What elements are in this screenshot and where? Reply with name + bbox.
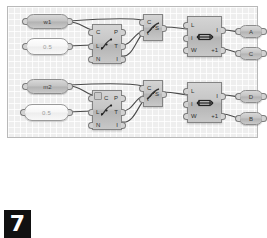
param-output-d[interactable]: D (239, 90, 263, 103)
port-in-l-nub-1[interactable] (88, 43, 93, 50)
component-rectangle-2[interactable]: L I W I +1 (187, 82, 222, 123)
port-label-c-2: C (104, 95, 108, 101)
param-output-d-output-nub[interactable] (262, 93, 265, 100)
port-label-n-2: N (96, 122, 100, 128)
param-number-1-label: 0.5 (43, 44, 52, 50)
port-label-i-1: I (116, 56, 118, 62)
param-number-2[interactable]: 0.5 (24, 104, 69, 121)
rect-port-label-i-2: I (191, 101, 193, 107)
eval-port-in-t-nub-2[interactable] (139, 96, 144, 103)
eval-port-in-c-nub-1[interactable] (139, 19, 144, 26)
param-w1-input-nub[interactable] (22, 18, 27, 25)
param-output-d-input-nub[interactable] (235, 93, 240, 100)
rect-port-label-w-1: W (191, 47, 197, 53)
param-number-2-label: 0.5 (42, 110, 51, 116)
port-in-c-nub-2[interactable] (88, 95, 93, 102)
port-label-c-1: C (96, 29, 100, 35)
rect-port-in-w-nub-1[interactable] (183, 47, 188, 54)
param-output-a[interactable]: A (239, 25, 263, 38)
param-m2-input-nub[interactable] (22, 83, 27, 90)
param-output-a-label: A (249, 29, 253, 35)
eval-port-in-c-nub-2[interactable] (139, 85, 144, 92)
param-output-c-output-nub[interactable] (262, 50, 265, 57)
rect-port-label-out-i-2: I (216, 93, 218, 99)
rect-port-in-w-nub-2[interactable] (183, 113, 188, 120)
port-label-p-1: P (114, 29, 118, 35)
rect-port-label-out-i-1: I (216, 27, 218, 33)
rect-port-in-l-nub-1[interactable] (183, 22, 188, 29)
param-output-b-output-nub[interactable] (262, 115, 265, 122)
component-rectangle-1[interactable]: L I W I +1 (187, 16, 222, 57)
port-in-l-nub-2[interactable] (88, 109, 93, 116)
rect-port-label-out-plus-2: +1 (211, 113, 218, 119)
rect-port-in-i-nub-1[interactable] (183, 35, 188, 42)
rect-port-label-i-1: I (191, 35, 193, 41)
port-label-p-2: P (114, 95, 118, 101)
param-number-2-input-nub[interactable] (20, 109, 25, 116)
param-w1[interactable]: w1 (26, 14, 69, 29)
port-in-c-nub-1[interactable] (88, 29, 93, 36)
param-output-a-input-nub[interactable] (235, 28, 240, 35)
divide-curve-icon (99, 103, 115, 117)
param-number-1[interactable]: 0.5 (26, 38, 69, 55)
port-in-n-nub-2[interactable] (88, 122, 93, 129)
rect-port-label-l-2: L (191, 88, 194, 94)
param-output-c-input-nub[interactable] (235, 50, 240, 57)
param-m2[interactable]: m2 (26, 79, 69, 94)
param-output-c-label: C (249, 51, 254, 57)
evaluate-curve-icon (146, 88, 160, 100)
rect-port-in-i-nub-2[interactable] (183, 101, 188, 108)
param-number-1-input-nub[interactable] (22, 43, 27, 50)
eval-port-in-t-nub-1[interactable] (139, 30, 144, 37)
rectangle-icon (196, 97, 214, 109)
param-w1-label: w1 (43, 19, 51, 25)
param-output-a-output-nub[interactable] (262, 28, 265, 35)
flag-icon (94, 92, 102, 100)
evaluate-curve-icon (146, 22, 160, 34)
param-output-b-input-nub[interactable] (235, 115, 240, 122)
rect-port-label-l-1: L (191, 22, 194, 28)
divide-curve-icon (99, 37, 115, 51)
port-label-i-2: I (116, 122, 118, 128)
port-label-n-1: N (96, 56, 100, 62)
component-evaluate-curve-2[interactable]: C t S (143, 80, 163, 107)
param-output-b-label: B (249, 116, 253, 122)
rect-port-label-out-plus-1: +1 (211, 47, 218, 53)
param-output-b[interactable]: B (239, 112, 263, 125)
rectangle-icon (196, 31, 214, 43)
component-divide-curve-1[interactable]: C L N P T I (92, 24, 122, 64)
rect-port-label-w-2: W (191, 113, 197, 119)
rect-port-in-l-nub-2[interactable] (183, 88, 188, 95)
component-evaluate-curve-1[interactable]: C t S (143, 14, 163, 41)
param-output-c[interactable]: C (239, 47, 263, 60)
param-output-d-label: D (249, 94, 254, 100)
component-divide-curve-2[interactable]: C L N P T I (92, 90, 122, 130)
port-in-n-nub-1[interactable] (88, 56, 93, 63)
param-m2-label: m2 (43, 84, 52, 90)
